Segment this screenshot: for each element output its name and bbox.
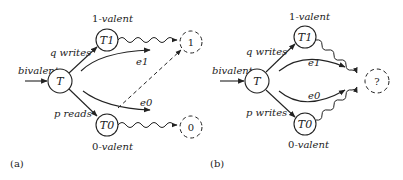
- wavy-edge-t0-to-0: [118, 123, 177, 128]
- wavy-edge-t0-to-unknown: [316, 87, 357, 120]
- node-t1-label: T1: [100, 34, 114, 47]
- outcome-unknown-label: ?: [374, 76, 379, 87]
- outcome-0-label: 0: [188, 122, 194, 133]
- caption-b: (b): [210, 158, 224, 169]
- e1-label: e1: [308, 57, 320, 68]
- caption-a: (a): [10, 158, 24, 169]
- e0-label: e0: [140, 97, 153, 108]
- wavy-edge-t1-to-1: [118, 38, 177, 43]
- bivalence-diagram: bivalent q writes p reads e1 e0 T T1 T0 …: [0, 0, 403, 180]
- node-t0-label: T0: [100, 119, 114, 132]
- p-reads-label: p reads: [54, 108, 92, 119]
- panel-b: bivalent q writes p writes e1 e0 T T1 T0…: [210, 11, 389, 169]
- bottom-valence-label: 0-valent: [92, 141, 134, 152]
- p-writes-label: p writes: [246, 107, 287, 118]
- panel-a: bivalent q writes p reads e1 e0 T T1 T0 …: [10, 13, 202, 169]
- e1-label: e1: [136, 56, 148, 67]
- e0-label: e0: [308, 90, 321, 101]
- node-t1-label: T1: [298, 31, 312, 44]
- q-writes-label: q writes: [246, 46, 287, 57]
- top-valence-label: 1-valent: [92, 13, 134, 24]
- top-valence-label: 1-valent: [289, 11, 331, 22]
- wavy-edge-t1-to-unknown: [316, 40, 357, 73]
- node-t0-label: T0: [298, 118, 312, 131]
- outcome-1-label: 1: [188, 37, 194, 48]
- bottom-valence-label: 0-valent: [288, 139, 330, 150]
- q-writes-label: q writes: [50, 47, 91, 58]
